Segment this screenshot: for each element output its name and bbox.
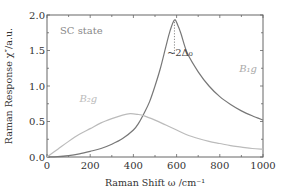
y-tick-label: 2.0 [29,10,45,21]
raman-chart: 020040060080010000.00.51.01.52.0 SC stat… [0,0,287,192]
x-axis-title: Raman Shift ω /cm⁻¹ [105,177,205,188]
x-tick-label: 600 [167,160,186,171]
x-tick-label: 800 [210,160,229,171]
y-axis-title: Raman Response χ″/a.u. [3,28,14,144]
series-line-b1g [47,20,263,157]
b1g-label: B₁g [238,63,257,74]
gap-label: ~2Δ₀ [167,47,193,58]
y-tick-label: 1.0 [29,81,45,92]
y-tick-label: 1.5 [29,45,45,56]
x-tick-label: 400 [124,160,143,171]
sc-state-label: SC state [60,25,103,36]
x-tick-label: 1000 [250,160,275,171]
x-tick-label: 200 [81,160,100,171]
series-line-b2g [47,114,263,157]
y-tick-label: 0.0 [29,152,45,163]
y-tick-label: 0.5 [29,116,45,127]
b2g-label: B₂g [78,93,97,104]
